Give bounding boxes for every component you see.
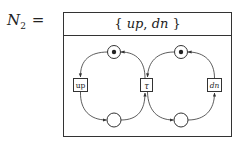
arc-dn-to-pTR xyxy=(188,52,215,78)
place-top-left xyxy=(108,46,121,59)
transition-dn-label: dn xyxy=(210,81,220,90)
separator: , xyxy=(143,16,147,31)
token-icon xyxy=(179,50,183,54)
transition-dn: dn xyxy=(208,79,222,92)
arc-tau-to-pBR xyxy=(148,92,174,120)
transition-tau-label: τ xyxy=(144,81,149,91)
place-top-right xyxy=(175,46,188,59)
action-up: up xyxy=(127,16,144,31)
open-brace: { xyxy=(114,16,122,31)
arc-pBL-to-tau xyxy=(121,93,145,120)
arc-pTR-to-tau xyxy=(148,52,175,77)
arc-up-to-pBL xyxy=(80,92,106,120)
token-icon xyxy=(112,50,116,54)
transition-up-label: up xyxy=(76,81,86,90)
transition-up: up xyxy=(74,79,88,92)
arc-tau-to-pTL xyxy=(121,52,145,78)
place-bottom-right xyxy=(174,113,188,127)
action-dn: dn xyxy=(152,16,169,31)
transition-tau: τ xyxy=(141,79,153,92)
arc-pBR-to-dn xyxy=(188,93,215,120)
place-bottom-left xyxy=(107,113,121,127)
alphabet-header: { up, dn } xyxy=(64,13,231,35)
close-brace: } xyxy=(172,16,180,31)
arc-pTL-to-up xyxy=(80,52,108,77)
